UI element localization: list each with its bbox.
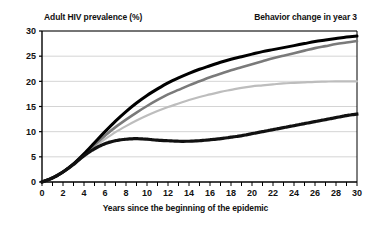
x-tick-label: 0 (39, 188, 44, 198)
x-tick-label: 10 (142, 188, 152, 198)
x-tick-label: 12 (163, 188, 173, 198)
x-tick-label: 22 (268, 188, 278, 198)
x-tick-label: 18 (226, 188, 236, 198)
y-tick-label: 5 (31, 152, 36, 162)
x-tick-label: 16 (205, 188, 215, 198)
line-chart: 051015202530024681012141618202224262830 (0, 0, 371, 225)
y-tick-label: 25 (26, 51, 36, 61)
x-tick-label: 20 (247, 188, 257, 198)
plot-area: 051015202530024681012141618202224262830 (0, 0, 371, 225)
y-tick-label: 20 (26, 77, 36, 87)
x-tick-label: 28 (331, 188, 341, 198)
x-tick-label: 24 (289, 188, 299, 198)
chart-root: Adult HIV prevalence (%) Behavior change… (0, 0, 371, 225)
series-line-1 (42, 41, 357, 182)
x-tick-label: 6 (102, 188, 107, 198)
x-tick-label: 30 (352, 188, 362, 198)
x-tick-label: 8 (123, 188, 128, 198)
chart-x-axis-title: Years since the beginning of the epidemi… (0, 203, 371, 213)
y-tick-label: 30 (26, 26, 36, 36)
x-tick-label: 2 (60, 188, 65, 198)
y-tick-label: 15 (26, 102, 36, 112)
x-tick-label: 14 (184, 188, 194, 198)
y-tick-label: 0 (31, 177, 36, 187)
series-line-0 (42, 36, 357, 182)
y-tick-label: 10 (26, 127, 36, 137)
x-tick-label: 4 (81, 188, 86, 198)
x-tick-label: 26 (310, 188, 320, 198)
